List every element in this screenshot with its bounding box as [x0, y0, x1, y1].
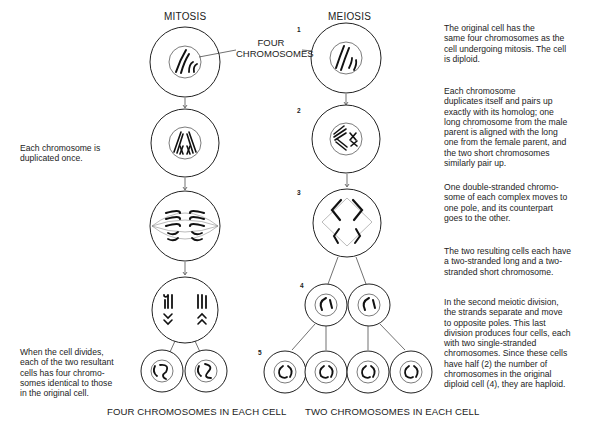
meiosis-cell-5b	[305, 351, 347, 393]
meiosis-note-5: In the second meiotic division, the stra…	[444, 297, 571, 390]
meiosis-note-3: One double-stranded chromo- some of each…	[444, 182, 567, 223]
meiosis-column	[264, 23, 432, 393]
meiosis-title: MEIOSIS	[328, 11, 371, 22]
meiosis-cell-5d	[390, 351, 432, 393]
meiosis-cell-3	[313, 189, 381, 257]
mitosis-cell-2	[151, 109, 219, 177]
meiosis-cell-4b	[348, 284, 390, 326]
mitosis-note-divides: When the cell divides, each of the two r…	[20, 347, 114, 398]
arrow-icon	[328, 257, 338, 284]
mitosis-daughter-cell-1	[141, 350, 183, 392]
mitosis-note-duplicated: Each chromosome is duplicated once.	[20, 143, 100, 164]
arrow-icon	[170, 341, 175, 352]
meiosis-footer: TWO CHROMOSOMES IN EACH CELL	[305, 406, 479, 417]
mitosis-cell-3	[150, 191, 220, 261]
mitosis-cell-1	[150, 27, 220, 97]
mitosis-title: MITOSIS	[164, 11, 206, 22]
meiosis-cell-2	[312, 105, 380, 173]
mitosis-cell-4	[152, 277, 218, 343]
arrow-icon	[195, 341, 200, 352]
meiosis-note-4: The two resulting cells each have a two-…	[444, 246, 571, 277]
meiosis-note-2: Each chromosome duplicates itself and pa…	[444, 86, 567, 168]
mitosis-daughter-cell-2	[185, 350, 227, 392]
step-label-1: 1	[297, 26, 301, 33]
arrow-icon	[292, 324, 315, 350]
step-label-4: 4	[300, 282, 304, 289]
step-label-5: 5	[258, 349, 262, 356]
meiosis-cell-4a	[305, 284, 347, 326]
meiosis-cell-1	[311, 23, 381, 93]
meiosis-cell-5c	[347, 351, 389, 393]
meiosis-note-1: The original cell has the same four chro…	[444, 23, 566, 64]
callout-line-2: CHROMOSOMES	[236, 48, 306, 59]
meiosis-cell-5a	[264, 351, 306, 393]
step-label-3: 3	[297, 189, 301, 196]
mitosis-footer: FOUR CHROMOSOMES IN EACH CELL	[107, 406, 286, 417]
arrow-icon	[380, 324, 405, 350]
callout-line-1: FOUR	[236, 37, 306, 48]
step-label-2: 2	[297, 107, 301, 114]
mitosis-column	[141, 27, 227, 392]
four-chromosomes-callout: FOUR CHROMOSOMES	[236, 37, 306, 59]
arrow-icon	[356, 257, 366, 284]
